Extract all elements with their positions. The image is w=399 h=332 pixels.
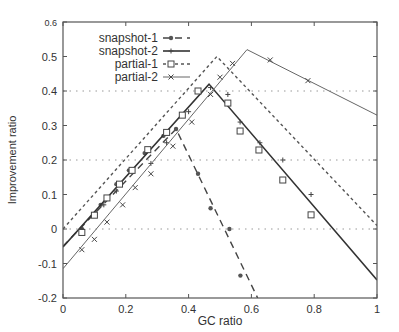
series-line [63, 84, 377, 280]
square-marker [164, 129, 170, 135]
legend-label: partial-1 [115, 57, 159, 71]
circle-marker [174, 127, 178, 131]
square-marker [104, 195, 110, 201]
series-line [63, 50, 377, 269]
x-tick-label: 0.2 [118, 303, 133, 315]
square-marker [280, 177, 286, 183]
legend-label: snapshot-1 [99, 31, 159, 45]
data-series [63, 50, 377, 298]
plus-marker [309, 192, 314, 197]
x-tick-label: 0.4 [181, 303, 196, 315]
x-tick-label: 0.8 [307, 303, 322, 315]
square-marker [117, 181, 123, 187]
y-tick-label: 0.6 [44, 18, 57, 28]
square-marker [308, 212, 314, 218]
square-marker [145, 147, 151, 153]
cross-marker [120, 202, 125, 207]
cross-marker [218, 75, 223, 80]
cross-marker [92, 237, 97, 242]
y-tick-label: 0.2 [42, 154, 57, 166]
chart-container: 00.20.40.60.81-0.2-0.100.10.20.30.40.50.… [0, 0, 399, 332]
grid-lines [63, 91, 377, 229]
cross-marker [79, 247, 84, 252]
square-marker [79, 229, 85, 235]
plus-marker [169, 49, 174, 54]
cross-marker [148, 171, 153, 176]
square-marker [237, 128, 243, 134]
cross-marker [170, 144, 175, 149]
square-marker [195, 88, 201, 94]
square-marker [225, 100, 231, 106]
square-marker [168, 61, 174, 67]
y-tick-label: 0 [51, 223, 57, 235]
cross-marker [189, 120, 194, 125]
series-partial-1 [63, 57, 377, 236]
legend-label: snapshot-2 [99, 44, 159, 58]
y-tick-label: 0.1 [42, 189, 57, 201]
x-tick-label: 0 [60, 303, 66, 315]
plus-marker [280, 158, 285, 163]
legend-label: partial-2 [115, 70, 159, 84]
circle-marker [208, 206, 212, 210]
square-marker [256, 147, 262, 153]
plus-marker [238, 120, 243, 125]
square-marker [129, 167, 135, 173]
x-tick-label: 0.6 [244, 303, 259, 315]
y-tick-label: -0.1 [38, 258, 57, 270]
plus-marker [225, 92, 230, 97]
square-marker [179, 112, 185, 118]
series-partial-2 [63, 50, 377, 269]
cross-marker [133, 185, 138, 190]
series-snapshot-2 [63, 84, 377, 280]
circle-marker [169, 36, 173, 40]
legend: snapshot-1snapshot-2partial-1partial-2 [99, 31, 190, 84]
x-tick-label: 1 [374, 303, 380, 315]
y-axis-label: Improvement ratio [6, 116, 18, 205]
x-axis-label: GC ratio [198, 314, 243, 328]
line-chart: 00.20.40.60.81-0.2-0.100.10.20.30.40.50.… [0, 0, 399, 332]
cross-marker [104, 220, 109, 225]
square-marker [91, 212, 97, 218]
circle-marker [238, 273, 242, 277]
y-tick-label: -0.2 [38, 292, 57, 304]
y-tick-label: 0.5 [42, 51, 57, 63]
axis-ticks: 00.20.40.60.81-0.2-0.100.10.20.30.40.50.… [38, 18, 380, 315]
circle-marker [196, 172, 200, 176]
circle-marker [227, 227, 231, 231]
cross-marker [230, 61, 235, 66]
y-tick-label: 0.4 [42, 85, 57, 97]
y-tick-label: 0.3 [42, 120, 57, 132]
plus-marker [208, 85, 213, 90]
